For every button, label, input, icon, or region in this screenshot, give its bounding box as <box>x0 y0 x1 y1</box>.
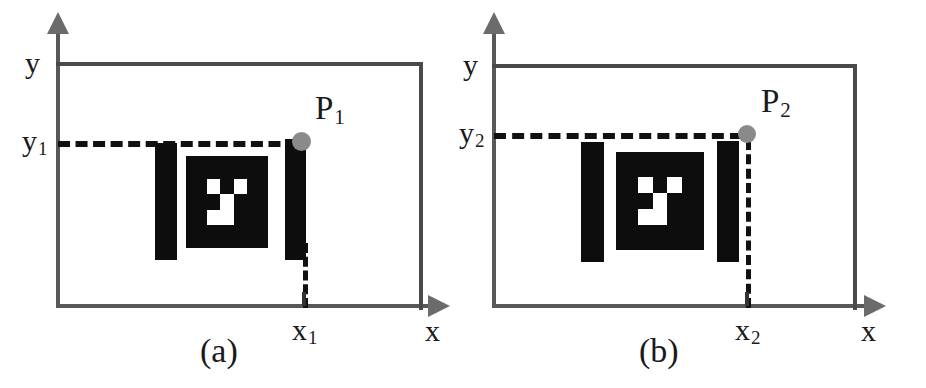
barcode-cell-1-1 <box>638 177 652 193</box>
barcode-cell-2-2 <box>653 193 667 209</box>
figure-canvas: y y1 P1 x1 x (a) y y2 P2 <box>0 0 926 388</box>
barcode-cell-1-0 <box>624 177 638 193</box>
point-label-p1-base: P <box>315 90 333 126</box>
point-label-p1-sub: 1 <box>334 105 345 129</box>
point-label-p2-sub: 2 <box>780 98 791 122</box>
barcode-cell-1-0 <box>193 179 207 194</box>
barcode-matrix-grid-b <box>624 161 696 241</box>
barcode-cell-4-1 <box>207 225 221 240</box>
barcode-cell-2-1 <box>207 194 221 209</box>
panel-caption-b: (b) <box>639 334 679 368</box>
barcode-cell-2-3 <box>234 194 248 209</box>
y1-tick-label-base-a: y <box>22 124 37 157</box>
barcode-cell-0-4 <box>682 161 696 177</box>
barcode-cell-3-3 <box>234 210 248 225</box>
barcode-right-bar-b <box>717 141 739 262</box>
barcode-cell-0-1 <box>207 164 221 179</box>
panel-a: y y1 P1 x1 x (a) <box>0 0 463 388</box>
x2-tick-label-sub-b: 2 <box>751 327 761 348</box>
barcode-cell-4-2 <box>653 225 667 241</box>
barcode-cell-1-3 <box>234 179 248 194</box>
y2-guide-line-b <box>494 133 742 139</box>
barcode-cell-4-4 <box>247 225 261 240</box>
barcode-cell-1-3 <box>667 177 681 193</box>
x1-tick-label-base-a: x <box>292 313 307 346</box>
barcode-cell-4-1 <box>638 225 652 241</box>
point-dot-p1 <box>292 132 311 151</box>
barcode-cell-3-1 <box>207 210 221 225</box>
barcode-left-bar-b <box>581 142 604 262</box>
barcode-cell-4-3 <box>234 225 248 240</box>
barcode-cell-0-3 <box>667 161 681 177</box>
y1-tick-label-a: y1 <box>22 126 47 156</box>
barcode-cell-0-0 <box>624 161 638 177</box>
y-axis-label-a: y <box>25 48 40 78</box>
y-axis-arrow-b <box>483 12 505 34</box>
x-axis-label-a: x <box>425 316 440 346</box>
point-label-p1: P1 <box>315 92 344 125</box>
barcode-cell-0-2 <box>220 164 234 179</box>
barcode-cell-0-2 <box>653 161 667 177</box>
barcode-right-bar-a <box>285 139 306 260</box>
y-axis-label-b: y <box>463 50 478 80</box>
x2-tick-label-base-b: x <box>735 313 750 346</box>
barcode-matrix-b <box>616 152 704 250</box>
barcode-matrix-a <box>186 156 268 248</box>
y2-tick-label-base-b: y <box>459 116 474 149</box>
barcode-cell-1-4 <box>682 177 696 193</box>
barcode-cell-0-0 <box>193 164 207 179</box>
barcode-cell-4-3 <box>667 225 681 241</box>
point-label-p2-base: P <box>761 83 779 119</box>
barcode-cell-0-4 <box>247 164 261 179</box>
x-axis-label-b: x <box>861 316 876 346</box>
point-label-p2: P2 <box>761 85 790 118</box>
barcode-cell-2-0 <box>624 193 638 209</box>
barcode-cell-0-1 <box>638 161 652 177</box>
barcode-cell-3-4 <box>247 210 261 225</box>
barcode-cell-4-0 <box>193 225 207 240</box>
barcode-cell-4-2 <box>220 225 234 240</box>
x1-tick-label-a: x1 <box>292 315 317 345</box>
barcode-cell-3-4 <box>682 209 696 225</box>
barcode-cell-3-0 <box>193 210 207 225</box>
y-axis-arrow-a <box>47 12 69 34</box>
barcode-cell-1-4 <box>247 179 261 194</box>
x2-guide-line-b <box>746 140 751 308</box>
barcode-cell-3-2 <box>220 210 234 225</box>
y1-guide-line-a <box>58 141 298 147</box>
x2-tick-label-b: x2 <box>735 315 760 345</box>
panel-b: y y2 P2 x2 x (b) <box>463 0 926 388</box>
y2-tick-label-b: y2 <box>459 118 484 148</box>
barcode-cell-1-2 <box>653 177 667 193</box>
y1-tick-label-sub-a: 1 <box>38 138 48 159</box>
panel-caption-a: (a) <box>200 334 238 368</box>
barcode-cell-2-0 <box>193 194 207 209</box>
barcode-matrix-grid-a <box>193 164 261 240</box>
barcode-cell-2-4 <box>682 193 696 209</box>
point-dot-p2 <box>738 125 756 143</box>
barcode-cell-2-1 <box>638 193 652 209</box>
barcode-cell-0-3 <box>234 164 248 179</box>
barcode-cell-3-2 <box>653 209 667 225</box>
y2-tick-label-sub-b: 2 <box>475 130 485 151</box>
x1-tick-a <box>302 292 306 306</box>
barcode-cell-3-0 <box>624 209 638 225</box>
barcode-cell-1-1 <box>207 179 221 194</box>
barcode-left-bar-a <box>155 143 177 260</box>
x1-tick-label-sub-a: 1 <box>308 327 318 348</box>
barcode-cell-2-4 <box>247 194 261 209</box>
barcode-cell-1-2 <box>220 179 234 194</box>
barcode-cell-2-2 <box>220 194 234 209</box>
barcode-cell-3-3 <box>667 209 681 225</box>
barcode-cell-4-4 <box>682 225 696 241</box>
barcode-cell-2-3 <box>667 193 681 209</box>
x2-tick-b <box>745 292 749 306</box>
barcode-cell-4-0 <box>624 225 638 241</box>
barcode-cell-3-1 <box>638 209 652 225</box>
